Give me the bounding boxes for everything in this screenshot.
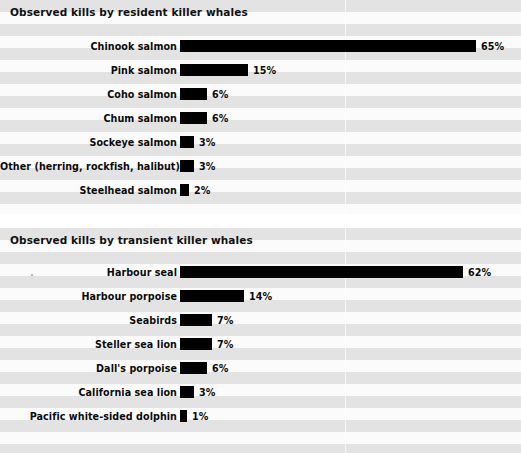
zebra-stripe (0, 24, 521, 36)
chart-bar-row: Harbour seal62% (0, 262, 521, 282)
zebra-stripe (0, 444, 521, 453)
bar (180, 160, 194, 172)
bar-value-label: 3% (199, 387, 215, 398)
zebra-stripe (0, 432, 521, 444)
chart-panel-resident-killer-whales: Observed kills by resident killer whales… (0, 0, 521, 214)
chart-panel-transient-killer-whales: Observed kills by transient killer whale… (0, 228, 521, 453)
chart-bar-row: Pacific white-sided dolphin1% (0, 406, 521, 426)
bar-value-label: 7% (217, 339, 233, 350)
bar-container: 65% (180, 40, 521, 52)
bar-category-label: Coho salmon (0, 89, 180, 100)
bar-category-label: Steelhead salmon (0, 185, 180, 196)
chart-bar-row: Steller sea lion7% (0, 334, 521, 354)
bar-container: 15% (180, 64, 521, 76)
bar-container: 6% (180, 88, 521, 100)
bar-container: 3% (180, 160, 521, 172)
bar-category-label: Harbour porpoise (0, 291, 180, 302)
bar (180, 136, 194, 148)
chart-title-transient: Observed kills by transient killer whale… (10, 234, 253, 246)
bar-category-label: Other (herring, rockfish, halibut) (0, 161, 180, 172)
bar-category-label: Harbour seal (0, 267, 180, 278)
bar-container: 7% (180, 338, 521, 350)
chart-bar-row: Seabirds7% (0, 310, 521, 330)
bar-value-label: 6% (212, 113, 228, 124)
bar-category-label: California sea lion (0, 387, 180, 398)
chart-bar-row: Other (herring, rockfish, halibut)3% (0, 156, 521, 176)
bar-value-label: 14% (249, 291, 272, 302)
bar-value-label: 15% (253, 65, 276, 76)
chart-bar-row: Dall's porpoise6% (0, 358, 521, 378)
bar (180, 314, 212, 326)
bar (180, 386, 194, 398)
bar-value-label: 3% (199, 161, 215, 172)
bar (180, 410, 187, 422)
chart-bar-row: Sockeye salmon3% (0, 132, 521, 152)
chart-bar-row: Coho salmon6% (0, 84, 521, 104)
bar-value-label: 7% (217, 315, 233, 326)
chart-bar-row: Pink salmon15% (0, 60, 521, 80)
bar-container: 14% (180, 290, 521, 302)
bar-value-label: 6% (212, 89, 228, 100)
bar (180, 362, 207, 374)
bar-category-label: Seabirds (0, 315, 180, 326)
bar-category-label: Chum salmon (0, 113, 180, 124)
scan-artifact-speck (31, 274, 33, 276)
bar-category-label: Pink salmon (0, 65, 180, 76)
bar-category-label: Steller sea lion (0, 339, 180, 350)
chart-bar-row: Harbour porpoise14% (0, 286, 521, 306)
bar-container: 6% (180, 112, 521, 124)
bar (180, 40, 476, 52)
bar-container: 6% (180, 362, 521, 374)
bar (180, 112, 207, 124)
bar-value-label: 6% (212, 363, 228, 374)
bar-container: 3% (180, 386, 521, 398)
bar-category-label: Sockeye salmon (0, 137, 180, 148)
bar-container: 62% (180, 266, 521, 278)
bar (180, 88, 207, 100)
bar-value-label: 3% (199, 137, 215, 148)
bar-category-label: Dall's porpoise (0, 363, 180, 374)
bar-value-label: 1% (192, 411, 208, 422)
bar (180, 184, 189, 196)
bar-category-label: Pacific white-sided dolphin (0, 411, 180, 422)
bar (180, 338, 212, 350)
bar-container: 7% (180, 314, 521, 326)
bar (180, 290, 244, 302)
bar-container: 3% (180, 136, 521, 148)
bar-value-label: 62% (468, 267, 491, 278)
chart-bar-row: Chum salmon6% (0, 108, 521, 128)
bar-value-label: 65% (481, 41, 504, 52)
chart-bar-row: Chinook salmon65% (0, 36, 521, 56)
bar (180, 266, 463, 278)
chart-title-resident: Observed kills by resident killer whales (10, 6, 248, 18)
bar-container: 1% (180, 410, 521, 422)
bar (180, 64, 248, 76)
chart-bar-row: Steelhead salmon2% (0, 180, 521, 200)
bar-container: 2% (180, 184, 521, 196)
zebra-stripe (0, 204, 521, 214)
bar-value-label: 2% (194, 185, 210, 196)
figure-root: Observed kills by resident killer whales… (0, 0, 521, 453)
chart-bar-row: California sea lion3% (0, 382, 521, 402)
bar-category-label: Chinook salmon (0, 41, 180, 52)
